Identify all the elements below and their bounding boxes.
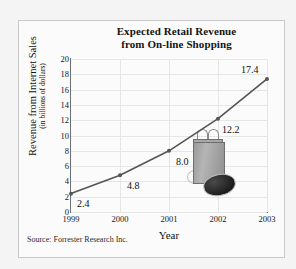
data-point-label: 4.8 xyxy=(127,180,140,191)
gridline-horizontal xyxy=(71,212,267,213)
y-axis-label-main: Revenue from Internet Sales xyxy=(27,21,38,171)
y-tick-label: 20 xyxy=(51,55,69,63)
x-tick-label: 2001 xyxy=(149,214,189,224)
chart-title: Expected Retail Revenue from On-line Sho… xyxy=(74,25,279,50)
x-tick-label: 2003 xyxy=(247,214,287,224)
data-point-label: 12.2 xyxy=(222,124,240,135)
chart-card: Expected Retail Revenue from On-line Sho… xyxy=(18,20,285,258)
y-tick-label: 4 xyxy=(51,177,69,185)
y-tick-label: 10 xyxy=(51,132,69,140)
y-axis-label-sub: (in billions of dollars) xyxy=(38,21,47,171)
y-tick-label: 12 xyxy=(51,116,69,124)
y-tick-label: 18 xyxy=(51,70,69,78)
data-point-label: 8.0 xyxy=(176,156,189,167)
source-note: Source: Forrester Research Inc. xyxy=(27,235,128,244)
y-tick-label: 6 xyxy=(51,162,69,170)
gridline-vertical xyxy=(120,59,121,212)
chart-title-line-1: Expected Retail Revenue xyxy=(74,25,279,38)
x-tick-label: 2002 xyxy=(198,214,238,224)
chart-title-line-2: from On-line Shopping xyxy=(74,38,279,51)
gridline-vertical xyxy=(169,59,170,212)
y-tick-label: 16 xyxy=(51,86,69,94)
x-tick-label: 2000 xyxy=(100,214,140,224)
data-point-label: 2.4 xyxy=(77,198,90,209)
gridline-vertical xyxy=(267,59,268,212)
data-point-label: 17.4 xyxy=(241,64,259,75)
shopping-illustration xyxy=(181,126,243,196)
chart-page: Expected Retail Revenue from On-line Sho… xyxy=(0,0,296,269)
y-tick-label: 2 xyxy=(51,193,69,201)
y-tick-label: 14 xyxy=(51,101,69,109)
y-tick-label: 8 xyxy=(51,147,69,155)
x-tick-label: 1999 xyxy=(51,214,91,224)
